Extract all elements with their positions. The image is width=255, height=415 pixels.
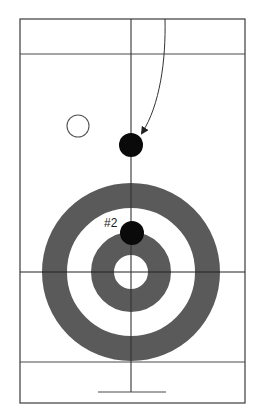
stone-2-label: #2	[104, 216, 117, 230]
delivery-path-arrow	[142, 19, 165, 133]
stone-2	[120, 221, 144, 245]
curling-sheet-diagram: #2	[0, 0, 255, 415]
open-stone	[67, 115, 89, 137]
sheet-svg	[0, 0, 255, 415]
stone-1	[119, 133, 143, 157]
